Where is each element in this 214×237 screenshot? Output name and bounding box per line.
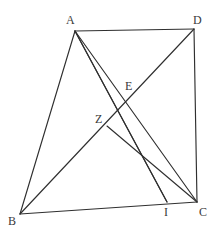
segment-a-d xyxy=(75,29,194,31)
geometry-diagram: ADBCIEZ xyxy=(0,0,214,237)
vertex-label-b: B xyxy=(8,215,16,227)
vertex-label-z: Z xyxy=(95,113,102,125)
vertex-label-i: I xyxy=(164,206,168,218)
vertex-label-a: A xyxy=(66,14,75,26)
vertex-label-e: E xyxy=(125,80,132,92)
segment-b-c xyxy=(20,202,197,214)
segment-a-i-second xyxy=(75,31,167,202)
edge-group xyxy=(20,29,197,214)
segment-a-b xyxy=(20,31,75,214)
diagram-canvas xyxy=(0,0,214,237)
segment-a-c xyxy=(75,31,197,202)
segment-d-c xyxy=(194,29,197,202)
vertex-label-d: D xyxy=(193,14,202,26)
segment-b-d xyxy=(20,29,194,214)
vertex-label-c: C xyxy=(199,206,207,218)
segment-z-c xyxy=(107,126,197,202)
